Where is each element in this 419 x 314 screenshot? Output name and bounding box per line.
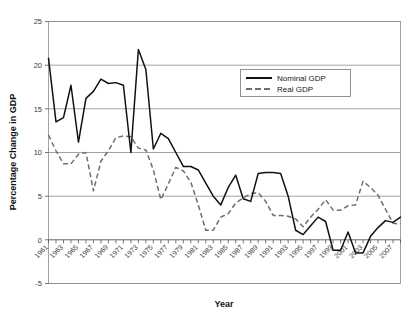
x-axis-title: Year: [214, 299, 234, 309]
y-tick-label: 15: [34, 105, 42, 114]
chart-canvas: 25 20 15 10 5 0 -5 196119631965196719691…: [0, 0, 419, 314]
y-tick-label: -5: [35, 279, 42, 288]
y-axis-title: Percentage Change in GDP: [8, 94, 18, 211]
chart-background: [1, 1, 419, 314]
legend-label-nominal: Nominal GDP: [277, 74, 326, 83]
legend-label-real: Real GDP: [277, 85, 313, 94]
y-tick-label: 0: [38, 236, 42, 245]
y-tick-label: 5: [38, 192, 42, 201]
y-tick-label: 10: [34, 148, 42, 157]
y-tick-label: 20: [34, 61, 42, 70]
gdp-percentage-change-chart: 25 20 15 10 5 0 -5 196119631965196719691…: [0, 0, 419, 314]
legend[interactable]: Nominal GDP Real GDP: [241, 70, 351, 97]
y-tick-label: 25: [34, 17, 42, 26]
